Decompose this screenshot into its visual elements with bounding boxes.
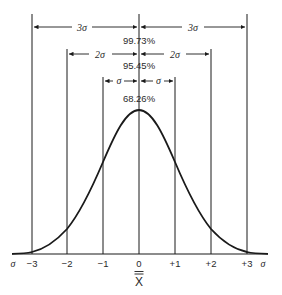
axis-left-sigma: σ — [11, 258, 17, 269]
tick-plus-1: +1 — [170, 258, 181, 269]
band-2sigma-left-label: 2σ — [95, 49, 106, 60]
band-1sigma-left-label: σ — [117, 75, 123, 86]
tick-minus-1: −1 — [98, 258, 109, 269]
svg-text:X: X — [135, 275, 143, 289]
band-3sigma-percent: 99.73% — [123, 35, 156, 46]
band-2sigma-right-label: 2σ — [170, 49, 181, 60]
tick-plus-3: +3 — [242, 258, 253, 269]
bell-curve — [12, 110, 268, 254]
tick-plus-2: +2 — [206, 258, 217, 269]
band-2sigma-percent: 95.45% — [123, 60, 156, 71]
band-3sigma-left-label: 3σ — [76, 22, 88, 33]
tick-minus-3: −3 — [27, 258, 38, 269]
normal-distribution-diagram: 3σ 3σ 99.73% 2σ 2σ 95.45% σ σ 68.26% σ −… — [0, 0, 282, 295]
sigma-lines — [32, 14, 247, 254]
tick-minus-2: −2 — [62, 258, 73, 269]
band-1sigma-right-label: σ — [156, 75, 162, 86]
band-1sigma-percent: 68.26% — [123, 93, 156, 104]
tick-zero: 0 — [136, 258, 141, 269]
axis-right-sigma: σ — [261, 258, 267, 269]
axis-label-x-double-bar: X — [135, 272, 144, 290]
band-3sigma-right-label: 3σ — [187, 22, 199, 33]
